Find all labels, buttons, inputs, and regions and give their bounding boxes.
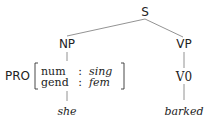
feature-sep-gend: : [78,76,82,89]
node-vp: VP [176,37,191,51]
node-v0: V0 [175,70,192,84]
left-bracket [35,63,38,89]
node-np: NP [59,37,75,51]
feature-value-gend: fem [88,76,110,89]
node-pro: PRO [5,69,30,83]
edge-s-np [67,19,145,36]
leaf-barked: barked [164,105,203,118]
feature-name-gend: gend [41,76,69,89]
leaf-she: she [57,105,77,118]
right-bracket [121,63,124,89]
edge-s-vp [145,19,183,37]
node-s: S [141,5,149,19]
syntax-tree: S NP VP PRO num : sing gend : fem she V0… [0,0,209,128]
